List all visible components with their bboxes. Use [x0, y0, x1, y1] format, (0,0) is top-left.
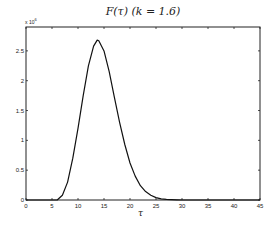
x-tick-label: 35 — [205, 203, 212, 209]
data-series-line — [26, 40, 260, 200]
y-tick-label: 1.5 — [16, 108, 25, 114]
x-tick-label: 25 — [153, 203, 160, 209]
x-tick-label: 20 — [127, 203, 134, 209]
x-tick-label: 15 — [101, 203, 108, 209]
x-tick-label: 45 — [257, 203, 264, 209]
x-axis-label: τ — [138, 208, 143, 218]
x-tick-label: 40 — [231, 203, 238, 209]
x-tick-label: 0 — [24, 203, 28, 209]
y-tick-label: 2.5 — [16, 48, 25, 54]
y-tick-label: 1 — [21, 137, 25, 143]
y-tick-label: 2 — [21, 78, 25, 84]
x-tick-label: 10 — [75, 203, 82, 209]
y-tick-label: 0.5 — [16, 167, 25, 173]
plot-area: 05101520253035404500.511.522.5 — [0, 0, 275, 226]
x-tick-label: 30 — [179, 203, 186, 209]
axes-frame — [26, 27, 260, 200]
x-tick-label: 5 — [50, 203, 54, 209]
